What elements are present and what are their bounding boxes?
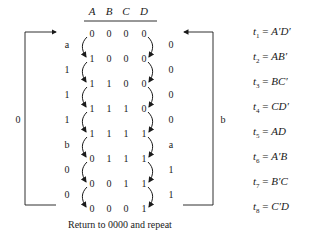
right-transition-label: 0 <box>169 65 174 75</box>
equation-t3: t3 = BC′ <box>253 76 288 90</box>
table-cell: 1 <box>90 104 95 114</box>
equation-t7: t7 = B′C <box>253 176 288 190</box>
table-cell: 1 <box>90 54 95 64</box>
table-cell: 0 <box>142 104 147 114</box>
left-transition-label: 1 <box>65 65 70 75</box>
header-b: B <box>106 6 113 17</box>
equation-t5: t5 = AD <box>253 126 286 140</box>
left-bracket-arrow <box>25 32 56 205</box>
left-transition-label: 1 <box>65 115 70 125</box>
table-cell: 0 <box>124 54 129 64</box>
table-cell: 0 <box>107 29 112 39</box>
right-bracket-arrow <box>183 32 213 205</box>
right-transition-label: 1 <box>169 165 174 175</box>
equation-t6: t6 = A′B <box>253 151 287 165</box>
right-transition-label: 0 <box>169 90 174 100</box>
table-cell: 0 <box>142 29 147 39</box>
table-cell: 1 <box>90 129 95 139</box>
table-cell: 1 <box>142 179 147 189</box>
left-transition-label: a <box>65 40 69 50</box>
table-cell: 0 <box>107 54 112 64</box>
table-cell: 0 <box>107 179 112 189</box>
table-cell: 0 <box>107 204 112 214</box>
table-cell: 0 <box>124 204 129 214</box>
right-transition-label: a <box>169 140 173 150</box>
right-bracket-label: b <box>221 115 226 125</box>
header-c: C <box>122 6 129 17</box>
table-cell: 1 <box>107 154 112 164</box>
table-cell: 0 <box>142 54 147 64</box>
table-cell: 1 <box>124 179 129 189</box>
right-transition-label: 1 <box>169 190 174 200</box>
table-cell: 1 <box>107 104 112 114</box>
equation-t2: t2 = AB′ <box>253 51 287 65</box>
table-cell: 1 <box>90 79 95 89</box>
table-cell: 1 <box>124 154 129 164</box>
equation-t1: t1 = A′D′ <box>253 26 291 40</box>
table-cell: 1 <box>142 154 147 164</box>
table-cell: 1 <box>142 129 147 139</box>
table-cell: 0 <box>90 179 95 189</box>
table-cell: 1 <box>107 129 112 139</box>
table-cell: 1 <box>142 204 147 214</box>
header-d: D <box>140 6 148 17</box>
header-a: A <box>89 6 96 17</box>
table-cell: 0 <box>124 79 129 89</box>
right-transition-label: 0 <box>169 115 174 125</box>
table-cell: 0 <box>90 29 95 39</box>
left-transition-label: 0 <box>65 165 70 175</box>
table-cell: 0 <box>90 154 95 164</box>
caption: Return to 0000 and repeat <box>68 220 172 230</box>
table-cell: 0 <box>142 79 147 89</box>
right-transition-label: 0 <box>169 40 174 50</box>
table-cell: 1 <box>124 129 129 139</box>
left-transition-label: 0 <box>65 190 70 200</box>
equation-t4: t4 = CD′ <box>253 101 289 115</box>
left-bracket-label: 0 <box>16 115 21 125</box>
left-transition-label: b <box>65 140 70 150</box>
equation-t8: t8 = C′D <box>253 201 289 215</box>
table-cell: 1 <box>107 79 112 89</box>
table-cell: 0 <box>124 29 129 39</box>
table-cell: 1 <box>124 104 129 114</box>
table-cell: 0 <box>90 204 95 214</box>
left-transition-label: 1 <box>65 90 70 100</box>
